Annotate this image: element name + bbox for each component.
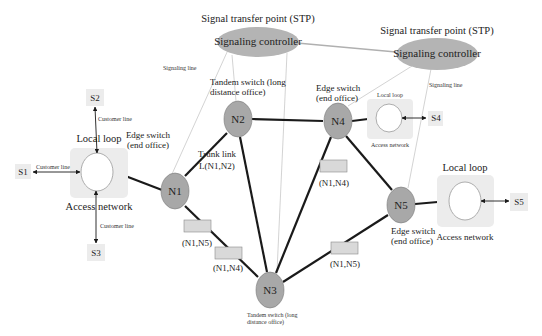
access-network-1: Local loop Access network — [66, 133, 134, 212]
access-network-label: Access network — [371, 142, 409, 148]
svg-text:(N1,N5): (N1,N5) — [330, 259, 360, 269]
svg-text:(end office): (end office) — [127, 140, 169, 150]
svg-text:N1: N1 — [168, 185, 181, 197]
svg-text:N2: N2 — [231, 113, 244, 125]
link-box-n1-mid: (N1,N4) — [213, 247, 243, 273]
node-n3: N3 Tandem switch (long distance office) — [247, 272, 298, 326]
stp-title: Signal transfer point (STP) — [201, 13, 315, 25]
node-n2: Tandem switch (long distance office) N2 — [210, 77, 286, 137]
local-loop-label: Local loop — [76, 133, 121, 144]
telephone-network-diagram: Local loop Access network Local loop Acc… — [0, 0, 542, 336]
signaling-line-label: Signaling line — [429, 82, 463, 88]
stp-to-stp-link — [297, 43, 396, 52]
svg-text:(N1,N5): (N1,N5) — [182, 238, 212, 248]
svg-text:Customer line: Customer line — [36, 164, 70, 170]
link-box-n5-bottom: (N1,N5) — [330, 242, 360, 269]
node-n4: Edge switch (end office) N4 — [316, 83, 361, 139]
svg-text:(N1,N4): (N1,N4) — [213, 263, 243, 273]
link-box-n4-top: (N1,N4) — [319, 160, 349, 188]
customer-line-s2 — [95, 107, 97, 153]
svg-text:Edge switch: Edge switch — [391, 226, 436, 236]
subscriber-s4: S4 — [428, 111, 443, 126]
svg-text:Customer line: Customer line — [98, 116, 132, 122]
svg-text:N5: N5 — [394, 199, 408, 211]
trunk-n4-n3 — [276, 137, 331, 273]
svg-text:(N1,N4): (N1,N4) — [319, 178, 349, 188]
trunk-link-label: Trunk link L(N1,N2) — [198, 149, 236, 171]
access-network-label: Access network — [436, 232, 494, 242]
stp-2: Signal transfer point (STP) Signaling co… — [380, 25, 494, 70]
signaling-line-label: Signaling line — [163, 65, 197, 71]
svg-text:Tandem switch (long: Tandem switch (long — [247, 312, 298, 319]
access-network-2: Local loop Access network — [367, 92, 413, 148]
node-n1: Edge switch (end office) N1 — [126, 130, 189, 209]
svg-text:distance office): distance office) — [247, 319, 284, 326]
svg-text:N3: N3 — [263, 284, 277, 296]
svg-text:S3: S3 — [91, 248, 101, 258]
svg-text:Trunk link: Trunk link — [198, 149, 236, 159]
svg-text:L(N1,N2): L(N1,N2) — [199, 161, 235, 171]
svg-text:S5: S5 — [514, 197, 524, 207]
link-box-n1-left: (N1,N5) — [182, 220, 212, 248]
access-network-3: Local loop Access network — [436, 162, 494, 242]
svg-text:Customer line: Customer line — [100, 223, 134, 229]
access-network-label: Access network — [66, 201, 134, 212]
subscriber-s3: S3 — [87, 244, 105, 261]
local-loop-label: Local loop — [377, 92, 403, 98]
subscriber-s5: S5 — [510, 193, 528, 211]
svg-text:N4: N4 — [331, 115, 345, 127]
local-loop-label: Local loop — [442, 162, 487, 173]
svg-text:distance office): distance office) — [210, 87, 266, 97]
stp-title: Signal transfer point (STP) — [380, 25, 494, 37]
svg-text:Tandem switch (long: Tandem switch (long — [210, 77, 286, 87]
stp-1: Signal transfer point (STP) Signaling co… — [201, 13, 315, 57]
svg-text:Edge switch: Edge switch — [316, 83, 361, 93]
svg-text:S2: S2 — [90, 93, 100, 103]
svg-text:Edge switch: Edge switch — [126, 130, 171, 140]
stp-label: Signaling controller — [393, 47, 481, 59]
svg-text:(end office): (end office) — [316, 93, 358, 103]
svg-text:(end office): (end office) — [391, 236, 433, 246]
trunk-n2-n4 — [252, 119, 323, 121]
svg-text:S1: S1 — [18, 167, 28, 177]
svg-text:S4: S4 — [431, 113, 441, 123]
trunk-n2-n3 — [240, 137, 267, 272]
stp-label: Signaling controller — [214, 35, 302, 47]
subscriber-s1: S1 — [15, 164, 31, 179]
node-n5: N5 Edge switch (end office) — [387, 187, 436, 246]
subscriber-s2: S2 — [86, 89, 104, 106]
